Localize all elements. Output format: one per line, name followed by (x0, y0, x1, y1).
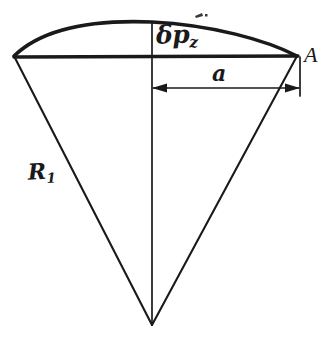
label-radius-r1: R1 (27, 159, 56, 186)
arrowhead-right-icon (285, 84, 300, 93)
label-delta-pz-subscript: z (189, 32, 198, 51)
label-delta-pz-base: δp (155, 20, 189, 50)
label-dimension-a: a (212, 62, 226, 84)
left-radius-line (14, 56, 152, 325)
ink-speck-mark (195, 13, 208, 18)
arrowhead-left-icon (152, 84, 167, 93)
label-point-a: A (304, 44, 317, 66)
label-radius-r1-base: R (27, 158, 47, 185)
right-radius-line (152, 56, 297, 325)
chord-line (14, 56, 298, 57)
label-delta-pz: δpz (156, 21, 199, 51)
figure-container: δpz A a R1 (0, 0, 324, 342)
label-radius-r1-subscript: 1 (46, 170, 56, 186)
